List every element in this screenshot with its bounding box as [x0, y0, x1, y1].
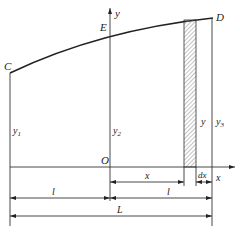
label-dim-l-left: l: [52, 186, 55, 197]
label-dim-l-right: l: [167, 186, 170, 197]
label-dim-x: x: [144, 170, 150, 181]
label-x-axis: x: [215, 172, 221, 183]
label-y1: y1: [12, 125, 21, 138]
label-y2: y2: [112, 125, 121, 138]
beam-diagram: C E D O y x y1 y2 y y3 x dx l l L: [0, 0, 240, 240]
label-O: O: [101, 154, 109, 166]
diagram-canvas: C E D O y x y1 y2 y y3 x dx l l L: [0, 0, 240, 240]
label-dim-L: L: [116, 204, 123, 215]
label-dim-dx: dx: [198, 170, 207, 180]
label-y3: y3: [215, 116, 224, 129]
label-C: C: [4, 60, 12, 72]
label-y: y: [200, 116, 206, 127]
label-y-axis: y: [114, 7, 120, 19]
hatched-strip: [184, 20, 196, 167]
profile-curve: [10, 18, 213, 73]
label-D: D: [215, 11, 224, 23]
label-E: E: [99, 21, 107, 33]
